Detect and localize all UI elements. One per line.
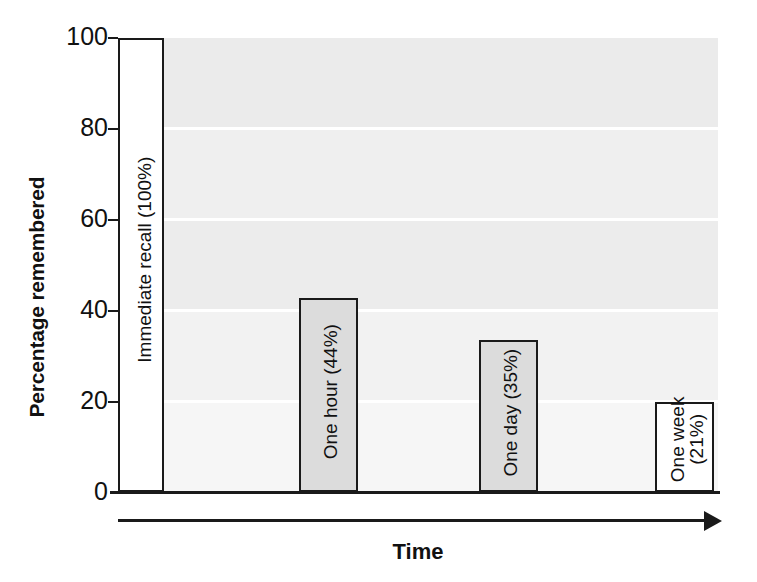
bar-one-week[interactable]: One week (21%) [655,402,714,492]
y-tick-label-100: 100 [52,24,108,49]
band-40-60 [118,220,718,311]
gridline-80 [118,127,718,130]
bar-one-hour[interactable]: One hour (44%) [299,298,358,492]
time-arrow-shaft [118,519,710,522]
y-tick-mark-60 [108,219,118,221]
band-0-20 [118,402,718,492]
band-60-80 [118,129,718,220]
band-80-100 [118,38,718,129]
forgetting-curve-bar-chart: Percentage remembered 100 80 60 40 20 0 … [0,0,757,582]
gridline-60 [118,218,718,221]
y-tick-mark-100 [108,37,118,39]
y-tick-label-20: 20 [52,388,108,413]
y-tick-label-0: 0 [52,479,108,504]
bar-label-immediate-recall: Immediate recall (100%) [135,100,154,420]
y-tick-mark-80 [108,128,118,130]
bar-label-one-week-line2: (21%) [686,414,707,465]
bar-label-one-hour: One hour (44%) [321,302,340,482]
y-tick-label-40: 40 [52,297,108,322]
x-axis-line [110,491,720,494]
plot-area: Immediate recall (100%) One hour (44%) O… [118,38,718,492]
bar-label-one-week-line1: One week [667,397,688,483]
y-axis-tick-group: 100 80 60 40 20 0 [46,0,108,582]
gridline-40 [118,309,718,312]
time-arrow-head-icon [704,511,722,531]
bar-one-day[interactable]: One day (35%) [479,340,538,492]
bar-label-one-day: One day (35%) [501,335,520,491]
y-tick-label-60: 60 [52,206,108,231]
y-tick-label-80: 80 [52,115,108,140]
y-tick-mark-20 [108,401,118,403]
y-tick-mark-40 [108,310,118,312]
x-axis-title: Time [118,539,718,565]
band-20-40 [118,311,718,402]
gridline-20 [118,400,718,403]
bar-label-one-week: One week (21%) [668,387,707,491]
bar-immediate-recall[interactable]: Immediate recall (100%) [118,38,164,492]
